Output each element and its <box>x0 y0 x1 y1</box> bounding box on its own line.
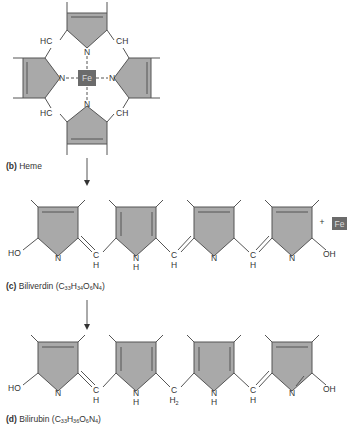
svg-text:HO: HO <box>8 383 21 393</box>
svg-text:HC: HC <box>40 36 52 46</box>
svg-text:H: H <box>93 260 99 270</box>
svg-text:C: C <box>171 250 177 260</box>
heme-caption: (b) Heme <box>6 161 42 171</box>
svg-text:N: N <box>84 47 90 57</box>
svg-text:H: H <box>133 262 139 272</box>
svg-text:C: C <box>250 250 256 260</box>
svg-text:N: N <box>84 99 90 109</box>
svg-text:N: N <box>211 253 217 263</box>
svg-text:H: H <box>250 395 256 405</box>
svg-text:H: H <box>93 395 99 405</box>
heme-structure: Fe N N N N HCCH HCCH <box>13 2 160 155</box>
svg-text:CH: CH <box>116 36 128 46</box>
svg-text:N: N <box>289 253 295 263</box>
svg-text:N: N <box>289 388 295 398</box>
svg-text:C: C <box>93 385 99 395</box>
svg-text:Fe: Fe <box>335 219 345 229</box>
bilirubin-structure: HO N CH NH CH2 NH CH N OH <box>8 335 336 407</box>
biliverdin-structure: HO N CH NH CH N CH N OH + Fe <box>8 200 347 272</box>
svg-text:H: H <box>171 260 177 270</box>
svg-text:N: N <box>109 73 115 83</box>
svg-text:H: H <box>133 397 139 407</box>
svg-text:+: + <box>320 217 325 227</box>
svg-text:H2: H2 <box>169 395 178 406</box>
svg-text:OH: OH <box>323 384 336 394</box>
svg-text:N: N <box>59 73 65 83</box>
svg-text:CH: CH <box>116 108 128 118</box>
biliverdin-caption: (c) Biliverdin (C33H34O6N4) <box>6 281 105 291</box>
svg-text:H: H <box>250 260 256 270</box>
reaction-diagram: .ring{fill:#a9a9a9;stroke:#555;stroke-wi… <box>0 0 351 427</box>
bilirubin-caption: (d) Bilirubin (C33H36O6N4) <box>6 414 101 424</box>
svg-text:OH: OH <box>323 249 336 259</box>
svg-text:H: H <box>211 397 217 407</box>
svg-text:N: N <box>55 388 61 398</box>
svg-text:Fe: Fe <box>82 73 92 83</box>
svg-text:C: C <box>171 385 177 395</box>
svg-text:C: C <box>250 385 256 395</box>
svg-text:C: C <box>93 250 99 260</box>
svg-text:HO: HO <box>8 248 21 258</box>
svg-text:N: N <box>55 253 61 263</box>
svg-text:HC: HC <box>40 108 52 118</box>
